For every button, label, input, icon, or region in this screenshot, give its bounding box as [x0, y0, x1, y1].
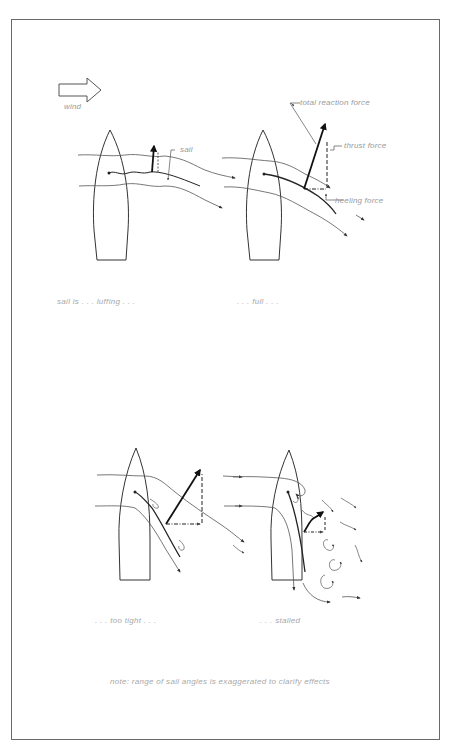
caption-stalled: . . . stalled	[260, 616, 300, 625]
boat-hull	[271, 450, 302, 580]
caption-full: . . . full . . .	[237, 297, 279, 306]
wind-arrow-icon	[59, 78, 101, 102]
sail-label: sail	[180, 145, 193, 154]
total-reaction-force-label: total reaction force	[300, 98, 370, 107]
caption-too-tight: . . . too tight . . .	[95, 616, 156, 625]
panel-too-tight	[95, 448, 244, 580]
boat-hull	[119, 448, 150, 580]
wind-label: wind	[64, 102, 81, 111]
panel-stalled	[233, 450, 362, 602]
thrust-force-label: thrust force	[344, 141, 386, 150]
panel-luffing	[78, 130, 235, 260]
caption-luffing: sail is . . . luffing . . .	[57, 297, 135, 306]
heeling-force-label: heeling force	[335, 196, 383, 205]
figure-note: note: range of sail angles is exaggerate…	[110, 677, 330, 686]
boat-hull	[93, 130, 128, 260]
sailing-diagram	[0, 0, 449, 745]
panel-full	[222, 103, 364, 260]
